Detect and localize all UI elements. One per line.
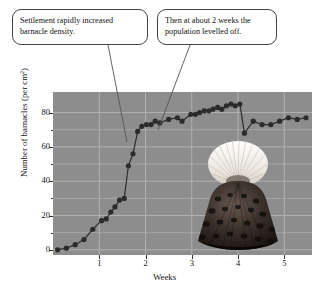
x-tick-label: 3: [182, 258, 202, 268]
callout-levelled: Then at about 2 weeks the population lev…: [157, 9, 277, 45]
y-tick-label: 20: [28, 210, 50, 220]
data-point: [202, 108, 207, 113]
callout-settlement: Settlement rapidly increased barnacle de…: [12, 9, 148, 45]
x-tick-mark: [192, 255, 193, 259]
data-point: [197, 110, 202, 115]
data-point: [64, 246, 69, 251]
data-point: [55, 247, 60, 252]
data-point: [179, 119, 184, 124]
barnacle-photo: [192, 137, 284, 252]
data-point: [122, 196, 127, 201]
data-point: [135, 129, 140, 134]
y-tick-label: 80: [28, 107, 50, 117]
data-point: [90, 227, 95, 232]
data-point: [295, 117, 300, 122]
data-point: [139, 124, 144, 129]
data-point: [303, 115, 308, 120]
data-point: [99, 218, 104, 223]
callout-levelled-line1: Then at about 2 weeks the: [165, 15, 270, 26]
data-point: [268, 122, 273, 127]
data-point: [242, 131, 247, 136]
barnacle-shell: [198, 181, 278, 250]
y-tick-label: 60: [28, 141, 50, 151]
x-tick-label: 2: [136, 258, 156, 268]
data-point: [126, 163, 131, 168]
data-point: [166, 117, 171, 122]
data-point: [104, 216, 109, 221]
data-point: [73, 242, 78, 247]
data-point: [224, 103, 229, 108]
x-tick-mark: [99, 255, 100, 259]
x-tick-mark: [238, 255, 239, 259]
data-point: [259, 122, 264, 127]
data-point: [175, 115, 180, 120]
x-tick-mark: [146, 255, 147, 259]
data-point: [233, 103, 238, 108]
data-point: [144, 122, 149, 127]
data-point: [219, 107, 224, 112]
data-point: [157, 120, 162, 125]
y-tick-mark-minor: [51, 233, 54, 234]
data-point: [286, 115, 291, 120]
x-axis-label: Weeks: [0, 272, 329, 282]
x-tick-label: 1: [89, 258, 109, 268]
x-tick-label: 4: [228, 258, 248, 268]
data-point: [188, 112, 193, 117]
x-tick-label: 5: [274, 258, 294, 268]
y-tick-mark-minor: [51, 164, 54, 165]
data-point: [130, 151, 135, 156]
callout-settlement-line2: barnacle density.: [20, 26, 141, 37]
callout-settlement-line1: Settlement rapidly increased: [20, 15, 141, 26]
data-point: [117, 197, 122, 202]
x-tick-mark: [284, 255, 285, 259]
data-point: [251, 119, 256, 124]
data-point: [112, 204, 117, 209]
data-point: [108, 210, 113, 215]
data-point: [210, 107, 215, 112]
y-tick-mark-minor: [51, 130, 54, 131]
data-point: [153, 119, 158, 124]
y-tick-label: 0: [28, 244, 50, 254]
figure-container: Settlement rapidly increased barnacle de…: [0, 0, 329, 295]
y-tick-label: 40: [28, 175, 50, 185]
data-point: [81, 237, 86, 242]
data-point: [277, 119, 282, 124]
data-point: [237, 101, 242, 106]
data-point: [148, 122, 153, 127]
barnacle-cirri: [207, 139, 268, 187]
callout-levelled-line2: population levelled off.: [165, 26, 270, 37]
y-axis-label: Number of barnacles (per cm2): [19, 42, 30, 202]
y-tick-mark-minor: [51, 198, 54, 199]
